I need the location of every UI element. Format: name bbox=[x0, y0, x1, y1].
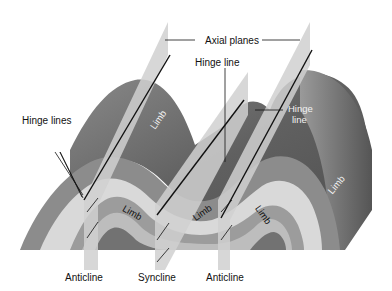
label-syncline: Syncline bbox=[138, 273, 176, 283]
label-hinge-line-right-1: Hinge bbox=[288, 104, 313, 114]
label-hinge-line-right-2: line bbox=[292, 115, 307, 125]
fold-diagram bbox=[0, 0, 392, 291]
label-anticline-right: Anticline bbox=[206, 273, 244, 283]
label-axial-planes: Axial planes bbox=[205, 36, 259, 46]
label-hinge-lines-left: Hinge lines bbox=[22, 116, 71, 126]
label-anticline-left: Anticline bbox=[65, 273, 103, 283]
label-hinge-line-top: Hinge line bbox=[195, 58, 239, 68]
